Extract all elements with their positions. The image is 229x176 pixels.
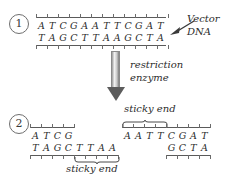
ladder-tick-9 xyxy=(166,155,167,159)
ladder-tick-17 xyxy=(124,45,125,49)
right-bottom-base-0: G xyxy=(166,142,177,153)
dna1-bottom-base-11: A xyxy=(155,32,166,43)
left-bottom-base-1: A xyxy=(41,142,52,153)
ladder-tick-2 xyxy=(47,14,48,18)
right-top-base-5: G xyxy=(177,130,188,141)
dna1-bottom-base-8: G xyxy=(123,32,134,43)
left-top-base-1: T xyxy=(41,130,52,141)
ladder-tick-2 xyxy=(52,124,53,128)
dna1-bottom-strand-bases: TAGCTTAAGCTA xyxy=(36,32,166,43)
dna1-top-base-11: T xyxy=(155,20,166,31)
dna1-top-base-8: C xyxy=(123,20,134,31)
ladder-tick-13 xyxy=(102,45,103,49)
right-fragment-bottom-strand-bases: GCTA xyxy=(166,142,210,153)
dna1-top-base-1: T xyxy=(47,20,58,31)
dna1-bottom-base-1: A xyxy=(47,32,58,43)
left-fragment-duplex: ATCG TAGCTTAA xyxy=(30,124,118,158)
left-bottom-base-0: T xyxy=(30,142,41,153)
right-top-base-4: C xyxy=(166,130,177,141)
right-top-base-1: A xyxy=(133,130,144,141)
restriction-enzyme-diagram: 1 ATCGAATTCGAT TAGCTTAAGCTA Vector DNA r… xyxy=(0,0,229,176)
ladder-tick-6 xyxy=(69,14,70,18)
left-top-base-3: G xyxy=(63,130,74,141)
ladder-tick-10 xyxy=(91,14,92,18)
ladder-tick-4 xyxy=(166,124,167,128)
ladder-tick-24 xyxy=(168,14,169,18)
ladder-tick-12 xyxy=(199,155,200,159)
ladder-tick-25 xyxy=(168,45,169,49)
dna1-bottom-base-3: C xyxy=(68,32,79,43)
ladder-tick-19 xyxy=(135,45,136,49)
dna1-bottom-base-10: T xyxy=(144,32,155,43)
left-top-base-2: C xyxy=(52,130,63,141)
ladder-tick-7 xyxy=(52,155,53,159)
dna1-bottom-base-9: C xyxy=(133,32,144,43)
left-fragment-bottom-strand-bases: TAGCTTAA xyxy=(30,142,118,153)
left-bottom-base-6: A xyxy=(96,142,107,153)
dna1-top-base-2: C xyxy=(58,20,69,31)
right-top-base-0: A xyxy=(122,130,133,141)
ladder-tick-15 xyxy=(113,45,114,49)
right-fragment-top-strand-bases: AATTCGAT xyxy=(122,130,210,141)
ladder-tick-13 xyxy=(210,155,211,159)
dna1-top-strand-bases: ATCGAATTCGAT xyxy=(36,20,166,31)
dna1-bottom-base-6: A xyxy=(101,32,112,43)
left-bottom-base-3: C xyxy=(63,142,74,153)
ladder-tick-6 xyxy=(188,124,189,128)
ladder-tick-18 xyxy=(135,14,136,18)
ladder-tick-7 xyxy=(69,45,70,49)
ladder-tick-1 xyxy=(41,124,42,128)
ladder-tick-0 xyxy=(36,14,37,18)
enzyme-arrow-shaft xyxy=(111,51,120,89)
dna1-top-base-6: T xyxy=(101,20,112,31)
restriction-enzyme-label-line2: enzyme xyxy=(130,71,183,84)
ladder-tick-0 xyxy=(122,124,123,128)
ladder-tick-6 xyxy=(41,155,42,159)
right-bottom-base-1: C xyxy=(177,142,188,153)
left-bottom-base-5: T xyxy=(85,142,96,153)
step-number-2: 2 xyxy=(9,114,29,134)
left-bottom-base-7: A xyxy=(107,142,118,153)
dna1-bottom-base-5: T xyxy=(90,32,101,43)
ladder-tick-2 xyxy=(144,124,145,128)
vector-dna-label-line1: Vector xyxy=(187,12,220,25)
left-bottom-base-4: T xyxy=(74,142,85,153)
ladder-tick-11 xyxy=(188,155,189,159)
right-sticky-end-label: sticky end xyxy=(124,103,176,115)
left-sticky-end-label: sticky end xyxy=(66,163,118,175)
ladder-tick-12 xyxy=(102,14,103,18)
ladder-tick-9 xyxy=(80,45,81,49)
dna1-top-base-9: G xyxy=(133,20,144,31)
ladder-tick-16 xyxy=(124,14,125,18)
vector-dna-label: Vector DNA xyxy=(187,12,220,38)
dna1-top-base-5: A xyxy=(90,20,101,31)
right-top-base-3: T xyxy=(155,130,166,141)
enzyme-arrow-head xyxy=(107,87,125,101)
ladder-tick-3 xyxy=(155,124,156,128)
ladder-tick-20 xyxy=(146,14,147,18)
right-fragment-duplex: AATTCGAT GCTA xyxy=(122,124,210,158)
dna1-bottom-base-0: T xyxy=(36,32,47,43)
left-bottom-base-2: G xyxy=(52,142,63,153)
right-top-base-7: T xyxy=(199,130,210,141)
dna1-top-base-0: A xyxy=(36,20,47,31)
ladder-tick-3 xyxy=(63,124,64,128)
dna1-bottom-base-7: A xyxy=(112,32,123,43)
dna1-top-base-7: T xyxy=(112,20,123,31)
ladder-tick-10 xyxy=(177,155,178,159)
ladder-tick-1 xyxy=(36,45,37,49)
left-fragment-top-strand-bases: ATCG xyxy=(30,130,74,141)
dna1-top-base-3: G xyxy=(68,20,79,31)
dna1-top-base-10: A xyxy=(144,20,155,31)
vector-dna-label-line2: DNA xyxy=(187,25,220,38)
ladder-tick-21 xyxy=(146,45,147,49)
ladder-tick-0 xyxy=(30,124,31,128)
ladder-tick-23 xyxy=(157,45,158,49)
ladder-tick-4 xyxy=(74,124,75,128)
restriction-enzyme-label-line1: restriction xyxy=(130,58,183,71)
dna1-top-base-4: A xyxy=(79,20,90,31)
restriction-enzyme-arrow xyxy=(106,51,126,101)
restriction-enzyme-label: restriction enzyme xyxy=(130,58,183,84)
ladder-tick-14 xyxy=(113,14,114,18)
ladder-tick-8 xyxy=(210,124,211,128)
